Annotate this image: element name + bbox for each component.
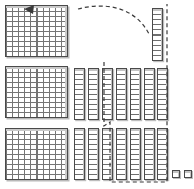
rod-right-bevel (125, 69, 127, 119)
rod-right-bevel (111, 129, 113, 179)
rod-right-bevel (97, 129, 99, 179)
ten-rod-bot-4[interactable] (116, 128, 127, 180)
rod-right-bevel (83, 69, 85, 119)
flat-gridlines (6, 6, 67, 56)
ten-rod-mid-6[interactable] (144, 68, 155, 120)
unit-right-bevel (190, 171, 192, 177)
rod-right-bevel (153, 129, 155, 179)
ten-rod-mid-1[interactable] (74, 68, 85, 120)
ten-rod-bot-3[interactable] (102, 128, 113, 180)
rod-right-bevel (97, 69, 99, 119)
flat-gridlines (6, 129, 67, 179)
flat-right-bevel (65, 6, 67, 56)
one-cube-1[interactable] (172, 170, 180, 178)
ten-rod-mid-5[interactable] (130, 68, 141, 120)
ten-rod-mid-7[interactable] (157, 68, 168, 120)
ten-rod-mid-3[interactable] (102, 68, 113, 120)
flat-right-bevel (65, 129, 67, 179)
ten-rod-mid-4[interactable] (116, 68, 127, 120)
one-cube-2[interactable] (184, 170, 192, 178)
ten-rod-top-1[interactable] (152, 8, 163, 61)
rod-right-bevel (161, 9, 163, 60)
regroup-arrow (78, 6, 150, 36)
rod-right-bevel (153, 69, 155, 119)
rod-right-bevel (83, 129, 85, 179)
hundred-flat-1[interactable] (5, 5, 68, 57)
flat-top-bevel (6, 6, 67, 8)
base-ten-blocks-canvas (0, 0, 194, 189)
flat-top-bevel (6, 129, 67, 131)
flat-gridlines (6, 67, 67, 117)
flat-right-bevel (65, 67, 67, 117)
rod-right-bevel (166, 129, 168, 179)
ten-rod-bot-5[interactable] (130, 128, 141, 180)
rod-right-bevel (139, 69, 141, 119)
ten-rod-bot-6[interactable] (144, 128, 155, 180)
rod-right-bevel (139, 129, 141, 179)
hundred-flat-3[interactable] (5, 128, 68, 180)
ten-rod-bot-2[interactable] (88, 128, 99, 180)
unit-right-bevel (178, 171, 180, 177)
ten-rod-mid-2[interactable] (88, 68, 99, 120)
rod-right-bevel (125, 129, 127, 179)
flat-top-bevel (6, 67, 67, 69)
rod-right-bevel (111, 69, 113, 119)
hundred-flat-2[interactable] (5, 66, 68, 118)
ten-rod-bot-7[interactable] (157, 128, 168, 180)
ten-rod-bot-1[interactable] (74, 128, 85, 180)
rod-right-bevel (166, 69, 168, 119)
